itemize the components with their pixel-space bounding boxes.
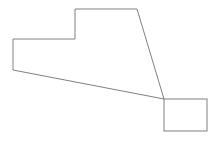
figure-canvas: Line drawing of two adjoining outlined s…	[0, 0, 222, 142]
canvas-background	[0, 0, 222, 142]
